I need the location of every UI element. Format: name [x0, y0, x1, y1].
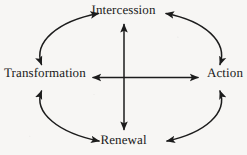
diagram-canvas: Intercession Transformation Action Renew… — [0, 0, 247, 155]
arc-renewal-transformation — [40, 91, 99, 141]
arc-intercession-action — [166, 14, 222, 65]
node-label-intercession: Intercession — [91, 3, 155, 17]
arc-action-renewal — [167, 91, 222, 141]
arc-transformation-intercession — [40, 14, 99, 65]
node-label-renewal: Renewal — [100, 133, 146, 147]
node-label-action: Action — [207, 66, 243, 80]
node-label-transformation: Transformation — [4, 66, 86, 80]
